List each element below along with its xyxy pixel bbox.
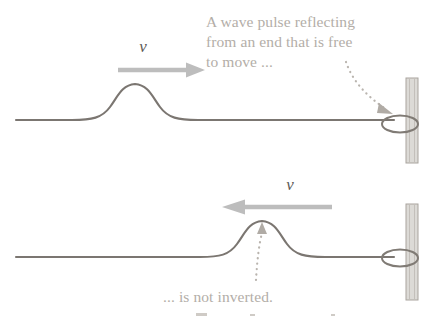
figure-canvas: A wave pulse reflecting from an end that… (0, 0, 437, 316)
leader-to-free-end (346, 62, 393, 114)
bottom-annotation: ... is not inverted. (163, 288, 273, 305)
velocity-label-incident: v (139, 37, 147, 56)
velocity-label-reflected: v (286, 175, 294, 194)
top-annotation-line-2: from an end that is free (206, 33, 353, 50)
panel-reflected: v (16, 175, 418, 300)
free-end-boundary-reflected (382, 204, 418, 300)
wave-reflection-figure: A wave pulse reflecting from an end that… (0, 0, 437, 316)
top-annotation-line-1: A wave pulse reflecting (206, 13, 355, 30)
top-annotation: A wave pulse reflecting from an end that… (206, 13, 355, 70)
rope-reflected (16, 221, 394, 257)
bottom-annotation-line-1: ... is not inverted. (163, 288, 273, 305)
leader-to-crest (256, 222, 267, 280)
velocity-arrow-left-icon (222, 200, 332, 215)
top-annotation-line-3: to move ... (206, 53, 273, 70)
velocity-arrow-right-icon (118, 63, 205, 78)
rope-incident (16, 84, 394, 120)
